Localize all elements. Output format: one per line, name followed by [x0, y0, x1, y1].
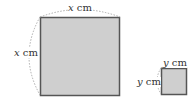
- small-side-label: y cm: [137, 77, 161, 87]
- small-top-label: y cm: [163, 58, 187, 68]
- large-side-label: x cm: [14, 48, 38, 58]
- large-top-label: x cm: [68, 3, 92, 13]
- large-square: [41, 18, 120, 96]
- small-square: [162, 69, 187, 95]
